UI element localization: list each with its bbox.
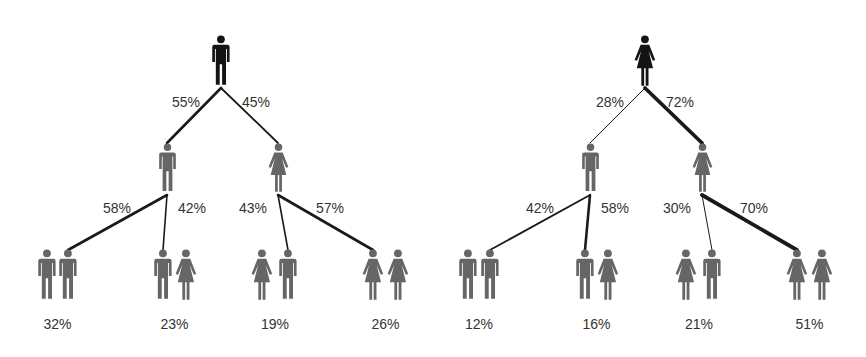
woman-icon	[175, 249, 197, 305]
woman-icon	[268, 143, 289, 197]
man-icon	[580, 143, 601, 197]
woman-icon	[387, 249, 409, 305]
woman-icon	[597, 249, 619, 305]
sub-branch-percent-label: 30%	[663, 200, 691, 216]
man-icon	[574, 249, 596, 305]
outcome-percent-label: 16%	[582, 316, 610, 332]
branch-percent-label: 45%	[242, 94, 270, 110]
outcome-percent-label: 26%	[371, 316, 399, 332]
branch-percent-label: 55%	[172, 94, 200, 110]
man-icon	[277, 249, 299, 305]
man-icon	[701, 249, 723, 305]
branch-percent-label: 72%	[666, 94, 694, 110]
connector-line	[702, 195, 712, 250]
branch-percent-label: 28%	[596, 94, 624, 110]
man-icon	[157, 143, 178, 197]
outcome-percent-label: 12%	[465, 316, 493, 332]
family-tree-diagram: 55% 58% 32%42% 23%45% 43% 19%57% 26% 28%…	[0, 0, 866, 357]
sub-branch-percent-label: 42%	[526, 200, 554, 216]
sub-branch-percent-label: 58%	[601, 200, 629, 216]
man-root-icon	[210, 35, 232, 91]
man-icon	[36, 249, 58, 305]
sub-branch-percent-label: 43%	[239, 200, 267, 216]
sub-branch-percent-label: 57%	[316, 200, 344, 216]
connector-line	[163, 195, 167, 250]
woman-icon	[675, 249, 697, 305]
woman-icon	[251, 249, 273, 305]
outcome-percent-label: 32%	[43, 316, 71, 332]
sub-branch-percent-label: 58%	[103, 200, 131, 216]
sub-branch-percent-label: 42%	[178, 200, 206, 216]
connector-line	[278, 195, 288, 250]
outcome-percent-label: 51%	[795, 316, 823, 332]
connector-line	[585, 195, 590, 250]
woman-icon	[811, 249, 833, 305]
man-icon	[57, 249, 79, 305]
connector-lines	[0, 0, 866, 357]
woman-root-icon	[634, 35, 656, 91]
sub-branch-percent-label: 70%	[740, 200, 768, 216]
outcome-percent-label: 21%	[685, 316, 713, 332]
woman-icon	[786, 249, 808, 305]
woman-icon	[692, 143, 713, 197]
outcome-percent-label: 19%	[261, 316, 289, 332]
woman-icon	[362, 249, 384, 305]
man-icon	[457, 249, 479, 305]
man-icon	[479, 249, 501, 305]
outcome-percent-label: 23%	[160, 316, 188, 332]
man-icon	[152, 249, 174, 305]
